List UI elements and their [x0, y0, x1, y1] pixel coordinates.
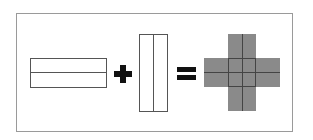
vertical-rectangle: [140, 35, 168, 112]
diagram-canvas: [0, 0, 313, 140]
plus-icon: [114, 65, 132, 83]
equals-icon: [177, 67, 196, 80]
horizontal-rectangle: [31, 59, 107, 88]
cross-result: [204, 34, 280, 111]
